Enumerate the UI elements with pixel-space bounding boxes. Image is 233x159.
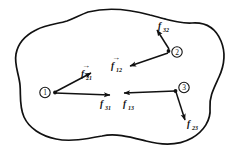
figure-canvas: 1 2 3 → f 21 f 31 → f 32 → (0, 0, 233, 159)
node-dot-2 (167, 49, 171, 53)
node-label-2: 2 (175, 48, 179, 57)
node-marker-1: 1 (40, 87, 50, 97)
node-label-1: 1 (43, 88, 47, 97)
node-dot-1 (53, 91, 57, 95)
force-diagram-figure: 1 2 3 → f 21 f 31 → f 32 → (0, 0, 233, 159)
node-label-3: 3 (182, 83, 186, 92)
node-dot-3 (174, 89, 178, 93)
vector-subscript-f31: 31 (104, 105, 111, 111)
vector-subscript-f23: 23 (191, 125, 198, 131)
vector-subscript-f13: 13 (128, 105, 134, 111)
node-marker-2: 2 (172, 47, 182, 57)
vector-subscript-f32: 32 (162, 27, 169, 33)
vector-subscript-f21: 21 (85, 75, 92, 81)
vector-subscript-f12: 12 (116, 67, 122, 73)
node-marker-3: 3 (179, 82, 189, 92)
